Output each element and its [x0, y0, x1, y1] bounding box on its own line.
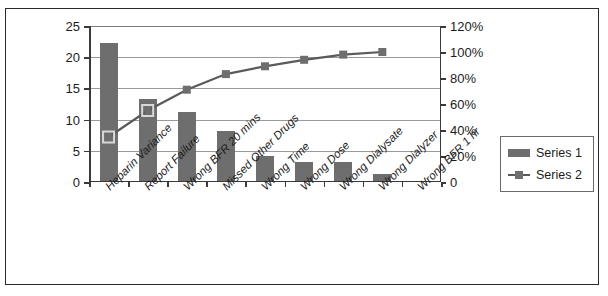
line-marker [378, 48, 386, 56]
y-axis-right-tick [441, 104, 446, 106]
chart-frame: 0510152025 020%40%60%80%100%120% Heparin… [5, 8, 599, 285]
y-axis-left-tick-label: 15 [66, 81, 80, 96]
y-axis-right-tick [441, 52, 446, 54]
y-axis-left-tick [84, 57, 89, 59]
x-axis-tick [441, 182, 443, 187]
x-axis-category-labels: Heparin VarianceReport FailureWrong BFR … [89, 184, 441, 284]
y-axis-right-tick-label: 80% [450, 71, 476, 86]
legend-line-swatch-icon [508, 171, 530, 180]
y-axis-left-tick [84, 88, 89, 90]
y-axis-left-tick [84, 151, 89, 153]
legend-label-series-2: Series 2 [536, 168, 582, 182]
y-axis-left-tick-label: 20 [66, 50, 80, 65]
line-marker [339, 51, 347, 59]
legend-bar-swatch-icon [508, 149, 530, 157]
y-axis-left-tick-label: 25 [66, 19, 80, 34]
y-axis-right-tick [441, 130, 446, 132]
y-axis-left-tick-label: 10 [66, 112, 80, 127]
legend-item-series-1: Series 1 [508, 146, 582, 160]
y-axis-left-tick-label: 5 [73, 143, 80, 158]
line-marker [183, 86, 191, 94]
legend-item-series-2: Series 2 [508, 168, 582, 182]
y-axis-left [89, 26, 91, 182]
y-axis-right-tick [441, 26, 446, 28]
y-axis-right-tick-label: 100% [450, 45, 483, 60]
y-axis-left-tick-label: 0 [73, 175, 80, 190]
line-marker [145, 108, 151, 114]
y-axis-right-tick [441, 78, 446, 80]
chart-legend: Series 1 Series 2 [500, 136, 594, 192]
y-axis-right-tick-label: 0 [450, 175, 457, 190]
legend-label-series-1: Series 1 [536, 146, 582, 160]
y-axis-right-tick-label: 60% [450, 97, 476, 112]
y-axis-left-tick [84, 26, 89, 28]
y-axis-left-tick [84, 120, 89, 122]
line-marker [300, 56, 308, 64]
y-axis-right-tick-label: 120% [450, 19, 483, 34]
line-marker [261, 62, 269, 70]
line-marker [106, 134, 112, 140]
line-marker [222, 70, 230, 78]
